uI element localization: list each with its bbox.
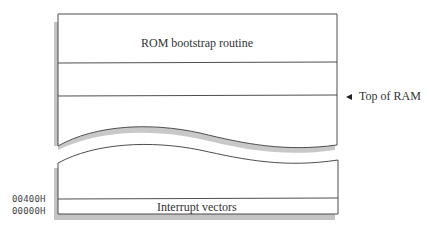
interrupt-vectors-label: Interrupt vectors (157, 201, 237, 213)
top-of-ram-label: Top of RAM (359, 89, 421, 104)
rom-bootstrap-label: ROM bootstrap routine (141, 37, 253, 49)
memory-map-diagram (0, 0, 430, 233)
address-00000h: 00000H (12, 207, 46, 216)
upper-block-outline (58, 14, 337, 148)
address-00400h: 00400H (12, 195, 46, 204)
top-of-ram-marker: Top of RAM (346, 89, 421, 104)
left-triangle-icon (346, 94, 352, 100)
